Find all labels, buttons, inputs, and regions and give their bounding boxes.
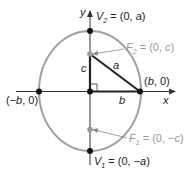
x-axis-label: x	[162, 94, 169, 106]
vertex-v2-point	[87, 28, 93, 34]
vertex-v1-point	[87, 148, 93, 154]
point-neg-b0-label: (−b, 0)	[6, 94, 38, 106]
v1-label: V1 = (0, −a)	[94, 155, 150, 169]
segment-a-label: a	[113, 59, 119, 71]
point-b0	[137, 89, 143, 95]
f1-pointer-arrow	[93, 130, 127, 139]
segment-b-label: b	[119, 94, 125, 106]
focus-f2-point	[87, 51, 93, 57]
f2-pointer-arrow	[93, 49, 124, 54]
f2-label: F2 = (0, c)	[126, 41, 174, 55]
v2-label: V2 = (0, a)	[96, 10, 145, 24]
origin-point	[87, 89, 93, 95]
y-axis-label: y	[79, 6, 87, 18]
focus-f1-point	[87, 127, 93, 133]
point-b0-label: (b, 0)	[144, 75, 170, 87]
f1-label: F1 = (0, −c)	[129, 132, 184, 146]
ellipse-diagram: y x V2 = (0, a) F2 = (0, c) c a b (b, 0)…	[0, 0, 188, 175]
diagram-svg: y x V2 = (0, a) F2 = (0, c) c a b (b, 0)…	[0, 0, 188, 175]
segment-c-label: c	[81, 62, 87, 74]
